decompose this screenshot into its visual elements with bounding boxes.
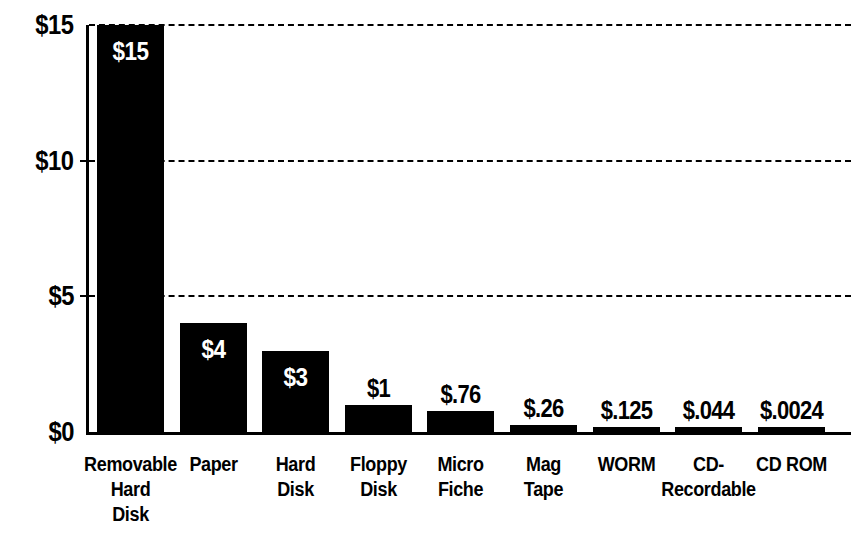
bar-value-label: $.26 [502, 394, 586, 423]
gridline [89, 295, 851, 297]
y-axis-tick-mark [80, 295, 92, 297]
bar: $4 [180, 323, 247, 432]
bar-value-label: $3 [266, 363, 326, 392]
x-axis-line [86, 432, 851, 435]
bar [427, 411, 494, 432]
category-label-line: Hard [81, 477, 181, 502]
bar [758, 427, 825, 432]
bar: $15 [97, 25, 164, 432]
bar-value-label: $4 [183, 335, 243, 364]
bar-value-label: $15 [100, 37, 160, 66]
gridline [89, 160, 851, 162]
y-axis-line [86, 25, 89, 434]
y-axis-tick-label: $10 [36, 146, 74, 177]
bar [593, 427, 660, 432]
bar-value-label: $.0024 [749, 396, 833, 425]
category-label-line: Disk [81, 502, 181, 527]
x-axis-category-label: CD ROM [741, 452, 841, 477]
bar-value-label: $1 [336, 374, 420, 403]
y-axis-tick-label: $5 [48, 281, 74, 312]
bar [510, 425, 577, 432]
bar [345, 405, 412, 432]
bar [675, 427, 742, 432]
y-axis-tick-label: $15 [36, 10, 74, 41]
y-axis-tick-mark [80, 160, 92, 162]
category-label-line: CD ROM [741, 452, 841, 477]
bar-value-label: $.125 [584, 396, 668, 425]
category-label-line: Tape [494, 477, 594, 502]
bar-value-label: $.76 [419, 380, 503, 409]
bar: $3 [262, 351, 329, 432]
y-axis-tick-label: $0 [48, 417, 74, 448]
bar-value-label: $.044 [667, 396, 751, 425]
gridline [89, 24, 851, 26]
bar-chart: $15$10$5$0 $15$4$3$1$.76$.26$.125$.044$.… [0, 0, 851, 544]
category-label-line: Recordable [659, 477, 759, 502]
